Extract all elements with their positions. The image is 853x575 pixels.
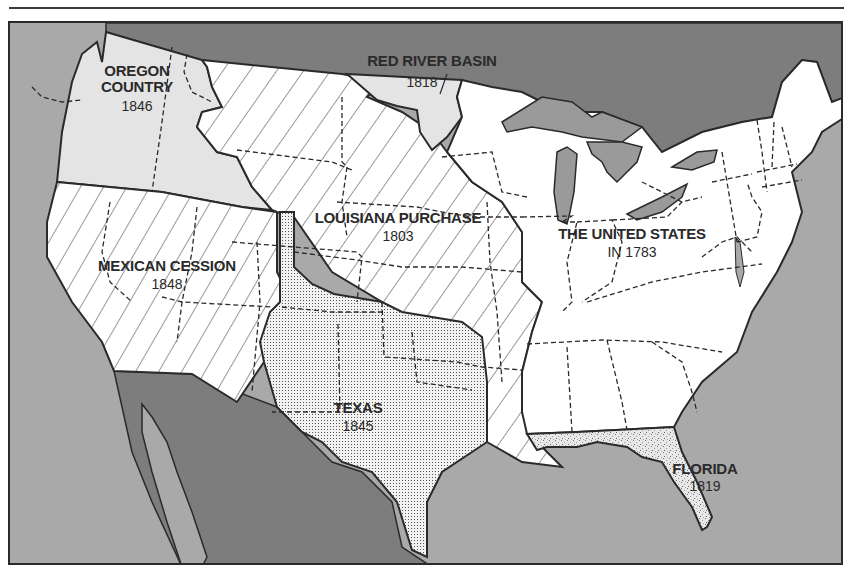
label-red-river-name: RED RIVER BASIN [332,53,532,69]
label-us-1783: THE UNITED STATES IN 1783 [532,226,732,259]
label-oregon-name-1: OREGON [72,63,202,79]
label-louisiana: LOUISIANA PURCHASE 1803 [278,210,518,243]
label-texas: TEXAS 1845 [318,400,398,433]
label-florida-name: FLORIDA [665,461,745,477]
label-louisiana-name: LOUISIANA PURCHASE [278,210,518,226]
label-red-river: RED RIVER BASIN 1818 [332,53,532,89]
label-oregon-year: 1846 [72,99,202,114]
label-oregon-name-2: COUNTRY [72,79,202,95]
map-frame: OREGON COUNTRY 1846 RED RIVER BASIN 1818… [8,21,843,565]
label-oregon: OREGON COUNTRY 1846 [72,63,202,113]
label-texas-year: 1845 [318,419,398,434]
label-mexican-cession-name: MEXICAN CESSION [72,258,262,274]
top-rule [9,7,844,9]
label-red-river-year: 1818 [312,75,532,90]
label-florida: FLORIDA 1819 [665,461,745,493]
label-us-1783-name: THE UNITED STATES [532,226,732,242]
label-mexican-cession-year: 1848 [72,277,262,292]
label-louisiana-year: 1803 [278,229,518,244]
label-texas-name: TEXAS [318,400,398,416]
label-florida-year: 1819 [665,479,745,494]
label-us-1783-year: IN 1783 [532,245,732,260]
label-mexican-cession: MEXICAN CESSION 1848 [72,258,262,291]
